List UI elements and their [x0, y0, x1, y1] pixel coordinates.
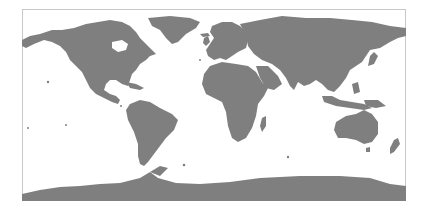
world-map [0, 0, 426, 210]
world-map-canvas [0, 0, 426, 210]
